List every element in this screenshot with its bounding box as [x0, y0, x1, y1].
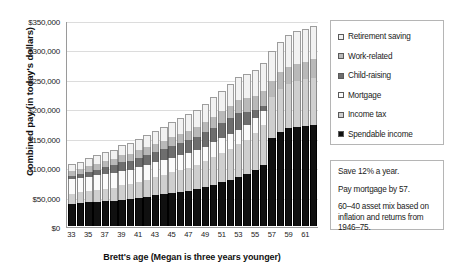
bar-column[interactable] [135, 22, 142, 226]
y-axis-tick-label: $250,000 [28, 76, 60, 85]
bar-segment [243, 74, 250, 98]
bar-segment [160, 127, 167, 141]
bar-column[interactable] [160, 22, 167, 226]
bar-segment [193, 150, 200, 165]
bar-column[interactable] [143, 22, 150, 226]
legend-item[interactable]: Work-related [338, 47, 443, 67]
bar-segment [210, 157, 217, 185]
x-axis-tick-label: 39 [117, 230, 125, 244]
bar-column[interactable] [218, 22, 225, 226]
bar-segment [85, 191, 92, 202]
bar-segment [243, 140, 250, 175]
bar-segment [168, 122, 175, 137]
x-axis-tick-label [159, 230, 167, 244]
bar-segment [210, 142, 217, 157]
x-axis-tick-label: 37 [100, 230, 108, 244]
legend-item[interactable]: Retirement saving [338, 27, 443, 47]
bar-column[interactable] [252, 22, 259, 226]
bar-column[interactable] [85, 22, 92, 226]
bar-segment [260, 165, 267, 226]
legend-item[interactable]: Child-raising [338, 66, 443, 86]
bar-segment [102, 189, 109, 201]
legend-item-label: Income tax [348, 110, 386, 119]
bar-column[interactable] [93, 22, 100, 226]
bar-segment [177, 192, 184, 226]
bar-column[interactable] [102, 22, 109, 226]
bar-segment [77, 162, 84, 169]
bar-column[interactable] [185, 22, 192, 226]
bar-segment [302, 126, 309, 226]
bar-segment [218, 111, 225, 123]
bar-column[interactable] [302, 22, 309, 226]
bar-segment [243, 112, 250, 125]
legend-box: Retirement savingWork-relatedChild-raisi… [330, 20, 444, 145]
bar-segment [185, 131, 192, 140]
y-axis-tick-label: $50,000 [32, 194, 60, 203]
bar-segment [227, 106, 234, 118]
bar-segment [310, 78, 317, 125]
bar-segment [110, 173, 117, 188]
note-line: 60–40 asset mix based on inflation and r… [338, 202, 437, 234]
bar-column[interactable] [235, 22, 242, 226]
bar-segment [127, 143, 134, 154]
bar-segment [252, 118, 259, 133]
bar-segment [202, 161, 209, 187]
bar-segment [268, 51, 275, 80]
bar-segment [68, 179, 75, 194]
bar-column[interactable] [268, 22, 275, 226]
bar-column[interactable] [293, 22, 300, 226]
bar-segment [135, 150, 142, 158]
bar-segment [68, 204, 75, 226]
legend-item[interactable]: Spendable income [338, 125, 443, 145]
bar-segment [193, 127, 200, 137]
bar-segment [235, 113, 242, 129]
bar-segment [118, 185, 125, 199]
y-axis-tick-label: $150,000 [28, 135, 60, 144]
bar-segment [268, 81, 275, 97]
bar-segment [293, 31, 300, 63]
bar-segment [227, 149, 234, 180]
bar-column[interactable] [168, 22, 175, 226]
bar-segment [185, 153, 192, 168]
bar-column[interactable] [118, 22, 125, 226]
bar-column[interactable] [243, 22, 250, 226]
bar-segment [218, 153, 225, 182]
bar-segment [93, 202, 100, 226]
bar-segment [243, 98, 250, 112]
bar-segment [235, 130, 242, 145]
bar-column[interactable] [210, 22, 217, 226]
bar-column[interactable] [77, 22, 84, 226]
bar-column[interactable] [193, 22, 200, 226]
legend-item[interactable]: Mortgage [338, 86, 443, 106]
legend-item[interactable]: Income tax [338, 105, 443, 125]
bar-segment [102, 174, 109, 189]
bar-segment [127, 170, 134, 185]
bar-segment [110, 201, 117, 226]
bar-column[interactable] [260, 22, 267, 226]
bar-column[interactable] [202, 22, 209, 226]
bar-segment [110, 188, 117, 201]
bar-segment [102, 152, 109, 161]
bar-column[interactable] [177, 22, 184, 226]
bar-column[interactable] [277, 22, 284, 226]
bar-segment [210, 185, 217, 226]
swatch-work-related-icon [338, 53, 344, 59]
bar-column[interactable] [110, 22, 117, 226]
bar-column[interactable] [285, 22, 292, 226]
bar-segment [102, 167, 109, 174]
bar-column[interactable] [310, 22, 317, 226]
bar-segment [218, 182, 225, 226]
bar-segment [277, 89, 284, 132]
bar-column[interactable] [68, 22, 75, 226]
bar-column[interactable] [152, 22, 159, 226]
bar-column[interactable] [227, 22, 234, 226]
swatch-income-tax-icon [338, 112, 344, 118]
y-axis-tick-label: $100,000 [28, 165, 60, 174]
x-axis-tick-label: 55 [251, 230, 259, 244]
bar-column[interactable] [127, 22, 134, 226]
bar-segment [143, 135, 150, 147]
bar-segment [135, 182, 142, 198]
bar-segment [143, 147, 150, 155]
bar-segment [285, 84, 292, 129]
bar-segment [77, 178, 84, 193]
